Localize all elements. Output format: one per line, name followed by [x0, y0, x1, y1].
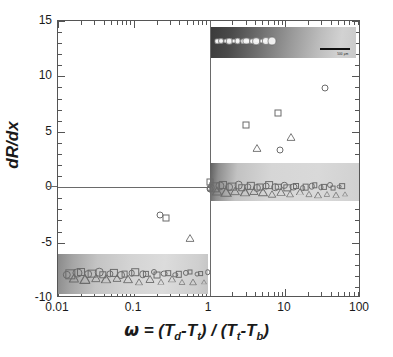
- data-point-square: [242, 122, 249, 129]
- y-tick--3: [58, 220, 62, 221]
- y-tick-right-9: [355, 87, 359, 88]
- x-tick-minor-20: [308, 292, 309, 296]
- x-tick-top-0.01: [58, 21, 59, 28]
- x-tick-minor-top-0.7000000000000001: [198, 21, 199, 25]
- x-title-T3: T: [226, 321, 236, 340]
- y-tick-13: [58, 43, 62, 44]
- x-tick-minor-9: [282, 292, 283, 296]
- y-tick-right-8: [355, 99, 359, 100]
- x-tick-minor-top-0.09: [130, 21, 131, 25]
- x-title-close2: ): [263, 321, 269, 340]
- x-tick-minor-top-6: [268, 21, 269, 25]
- y-tick-5: [58, 132, 65, 133]
- data-point-triangle: [287, 127, 296, 135]
- y-tick-right--2: [355, 209, 359, 210]
- x-tick-minor-top-7: [274, 21, 275, 25]
- y-tick-right-10: [352, 76, 359, 77]
- y-tick-right-4: [355, 143, 359, 144]
- x-tick-minor-top-4: [255, 21, 256, 25]
- scale-bar-label: 500 µm: [337, 52, 348, 56]
- x-tick-minor-top-0.07: [122, 21, 123, 25]
- x-tick-label-10: 10: [277, 300, 290, 314]
- y-tick-label-10: 10: [39, 68, 52, 82]
- x-tick-minor-3: [246, 292, 247, 296]
- x-tick-minor-top-0.8: [202, 21, 203, 25]
- x-tick-minor-top-0.2: [157, 21, 158, 25]
- unity-reference-line: [210, 21, 211, 296]
- microscopy-inset-middle-right-background: [210, 163, 360, 201]
- x-tick-minor-top-70: [349, 21, 350, 25]
- data-point-circle: [276, 147, 283, 154]
- x-tick-minor-top-90: [358, 21, 359, 25]
- x-tick-minor-top-3: [246, 21, 247, 25]
- x-tick-label-100: 100: [349, 300, 369, 314]
- x-tick-minor-top-8: [278, 21, 279, 25]
- x-tick-minor-top-0.02: [81, 21, 82, 25]
- data-point-square: [163, 214, 170, 221]
- y-tick--1: [58, 198, 62, 199]
- x-tick-label-0p01: 0.01: [45, 300, 68, 314]
- x-tick-minor-top-0.9: [206, 21, 207, 25]
- microscopy-inset-middle-right: [210, 163, 360, 201]
- x-axis-tick-labels: 0.01 0.1 1 10 100: [0, 300, 393, 318]
- x-tick-minor-2: [232, 292, 233, 296]
- x-tick-minor-5: [262, 292, 263, 296]
- y-tick-right-6: [355, 121, 359, 122]
- x-tick-minor-top-60: [344, 21, 345, 25]
- data-point-circle: [321, 85, 328, 92]
- x-tick-label-0p1: 0.1: [125, 300, 142, 314]
- y-axis-title: dR/dx: [3, 95, 23, 195]
- x-title-close1: ) / (: [201, 321, 227, 340]
- x-tick-minor-6: [268, 292, 269, 296]
- data-point-triangle: [185, 228, 194, 236]
- x-tick-minor-top-0.04: [104, 21, 105, 25]
- y-tick-label-m5: -5: [41, 235, 52, 249]
- x-tick-minor-top-0.4: [179, 21, 180, 25]
- x-tick-minor-30: [321, 292, 322, 296]
- y-tick-right-5: [352, 132, 359, 133]
- x-title-T2: T: [187, 321, 197, 340]
- y-tick-1: [58, 176, 62, 177]
- x-tick-minor-top-0.6000000000000001: [193, 21, 194, 25]
- x-tick-minor-8: [278, 292, 279, 296]
- y-tick-2: [58, 165, 62, 166]
- x-tick-minor-top-0.05: [111, 21, 112, 25]
- scale-bar: [320, 48, 350, 50]
- x-tick-minor-top-9: [282, 21, 283, 25]
- microscopy-inset-top-right-background: [211, 27, 356, 58]
- y-tick--4: [58, 232, 62, 233]
- x-tick-minor-60: [344, 292, 345, 296]
- y-tick-right--4: [355, 232, 359, 233]
- x-tick-minor-top-0.5: [187, 21, 188, 25]
- data-point-triangle: [252, 138, 261, 146]
- x-axis-title: ω = (Td-Tt) / (Tt-Tb): [0, 320, 393, 342]
- x-tick-minor-70: [349, 292, 350, 296]
- x-tick-minor-80: [354, 292, 355, 296]
- x-tick-minor-top-0.30000000000000004: [170, 21, 171, 25]
- x-tick-minor-top-2: [232, 21, 233, 25]
- y-tick-12: [58, 54, 62, 55]
- x-tick-minor-40: [331, 292, 332, 296]
- y-tick-15: [58, 21, 65, 22]
- x-tick-minor-top-30: [321, 21, 322, 25]
- y-tick--2: [58, 209, 62, 210]
- x-tick-10: [285, 289, 286, 296]
- y-tick-8: [58, 99, 62, 100]
- y-tick-label-5: 5: [45, 124, 52, 138]
- x-tick-minor-top-80: [354, 21, 355, 25]
- x-title-T4: T: [246, 321, 256, 340]
- x-tick-minor-top-20: [308, 21, 309, 25]
- y-tick-label-15: 15: [39, 13, 52, 27]
- x-tick-minor-top-0.08: [126, 21, 127, 25]
- x-tick-minor-top-40: [331, 21, 332, 25]
- x-tick-minor-top-5: [262, 21, 263, 25]
- x-tick-label-1: 1: [205, 300, 212, 314]
- data-point-circle: [156, 211, 163, 218]
- y-tick-right--3: [355, 220, 359, 221]
- figure-root: dR/dx 15 10 5 0 -5 -10 0.01 0.1 1 10 100…: [0, 0, 393, 357]
- x-tick-minor-50: [338, 292, 339, 296]
- y-axis-tick-labels: 15 10 5 0 -5 -10: [22, 20, 52, 297]
- y-tick-right--8: [355, 276, 359, 277]
- plot-area: 500 µm: [57, 20, 360, 297]
- y-tick-9: [58, 87, 62, 88]
